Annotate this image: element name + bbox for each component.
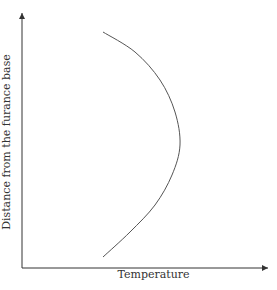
chart-canvas [0, 0, 277, 290]
y-axis-label: Distance from the furance base [0, 54, 13, 230]
temperature-curve [103, 32, 180, 257]
x-axis-label: Temperature [0, 268, 277, 281]
